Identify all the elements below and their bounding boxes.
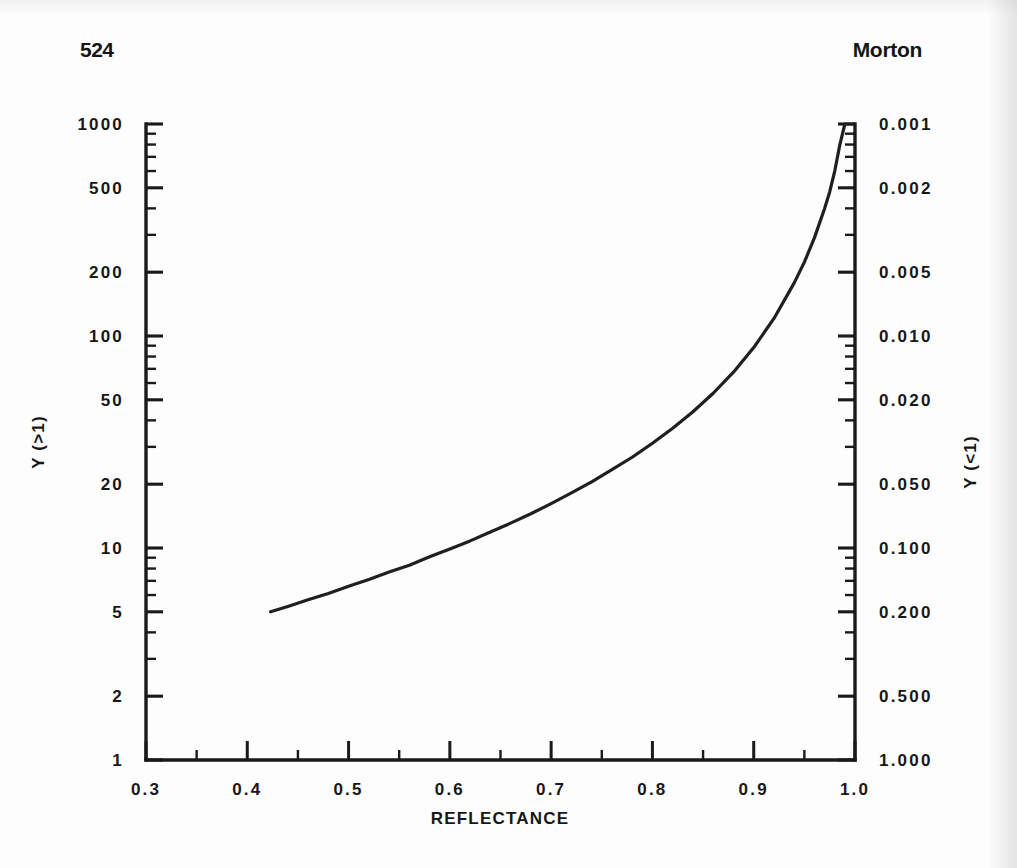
tick-label-left: 2: [112, 687, 124, 706]
tick-label-left: 5: [112, 603, 124, 622]
y-axis-title-right: Y (<1): [961, 435, 980, 489]
tick-label-right: 0.002: [879, 179, 933, 198]
figure-semilog-reflectance-chart: 1000500200100502010521 0.0010.0020.0050.…: [0, 0, 1017, 868]
x-axis-tick-labels: 0.30.40.50.60.70.80.91.0: [131, 780, 870, 799]
x-axis-ticks: [146, 741, 855, 760]
left-axis-ticks: [146, 124, 163, 760]
tick-label-right: 0.001: [879, 115, 933, 134]
tick-label-right: 0.005: [879, 263, 933, 282]
tick-label-left: 500: [89, 179, 124, 198]
tick-label-left: 1: [112, 751, 124, 770]
chart-svg: 1000500200100502010521 0.0010.0020.0050.…: [0, 0, 1017, 868]
tick-label-x: 0.4: [232, 780, 262, 799]
tick-label-x: 0.3: [131, 780, 161, 799]
tick-label-right: 0.500: [879, 687, 933, 706]
tick-label-right: 0.010: [879, 327, 933, 346]
tick-label-left: 200: [89, 263, 124, 282]
tick-label-right: 0.020: [879, 391, 933, 410]
tick-label-left: 1000: [77, 115, 124, 134]
tick-label-left: 10: [101, 539, 124, 558]
right-axis-ticks: [838, 124, 855, 760]
tick-label-x: 0.9: [739, 780, 769, 799]
tick-label-x: 0.7: [536, 780, 566, 799]
plot-axes: [146, 124, 855, 760]
y-axis-title-left: Y (>1): [29, 415, 48, 469]
left-axis-tick-labels: 1000500200100502010521: [77, 115, 124, 770]
tick-label-x: 0.6: [435, 780, 465, 799]
tick-label-right: 0.200: [879, 603, 933, 622]
tick-label-x: 0.5: [333, 780, 363, 799]
tick-label-right: 0.100: [879, 539, 933, 558]
tick-label-right: 1.000: [879, 751, 933, 770]
tick-label-x: 0.8: [637, 780, 667, 799]
x-axis-title: REFLECTANCE: [431, 809, 570, 828]
tick-label-left: 50: [101, 391, 124, 410]
tick-label-right: 0.050: [879, 475, 933, 494]
tick-label-left: 20: [101, 475, 124, 494]
right-axis-tick-labels: 0.0010.0020.0050.0100.0200.0500.1000.200…: [879, 115, 933, 770]
tick-label-left: 100: [89, 327, 124, 346]
tick-label-x: 1.0: [840, 780, 870, 799]
reflectance-curve: [271, 124, 854, 612]
